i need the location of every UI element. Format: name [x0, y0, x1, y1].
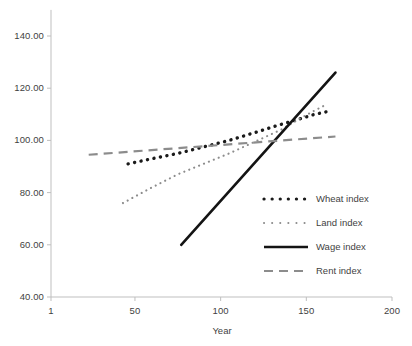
series-line-rent-index: [89, 136, 336, 154]
series-line-wheat-index: [128, 112, 327, 164]
legend-label-land-index: Land index: [316, 217, 362, 228]
x-axis-title: Year: [192, 325, 252, 336]
legend-swatch-wheat-index: [262, 187, 310, 211]
legend-item[interactable]: Wheat index: [262, 187, 408, 211]
y-axis-tick-label: 60.00: [0, 239, 44, 250]
y-axis-tick-label: 120.00: [0, 82, 44, 93]
legend-label-rent-index: Rent index: [316, 265, 361, 276]
y-axis-tick-label: 40.00: [0, 291, 44, 302]
page-edge-text-fragment: [4, 338, 304, 346]
legend-swatch-land-index: [262, 211, 310, 235]
legend-item[interactable]: Land index: [262, 211, 408, 235]
x-axis-tick-label: 100: [201, 305, 241, 316]
y-axis-tick-label: 80.00: [0, 187, 44, 198]
legend-label-wage-index: Wage index: [316, 241, 366, 252]
x-axis-tick-label: 50: [115, 305, 155, 316]
x-axis-tick-label: 200: [372, 305, 412, 316]
legend-swatch-rent-index: [262, 259, 310, 283]
legend-label-wheat-index: Wheat index: [316, 193, 369, 204]
legend-swatch-wage-index: [262, 235, 310, 259]
x-axis-tick-label: 1: [31, 305, 71, 316]
y-axis-tick-label: 100.00: [0, 134, 44, 145]
chart-figure: 40.0060.0080.00100.00120.00140.00 150100…: [0, 0, 412, 346]
legend-item[interactable]: Rent index: [262, 259, 408, 283]
chart-plot-area: [0, 0, 412, 346]
legend-item[interactable]: Wage index: [262, 235, 408, 259]
chart-legend: Wheat index Land index Wage index Rent i…: [262, 187, 408, 283]
x-axis-tick-label: 150: [286, 305, 326, 316]
y-axis-tick-label: 140.00: [0, 30, 44, 41]
